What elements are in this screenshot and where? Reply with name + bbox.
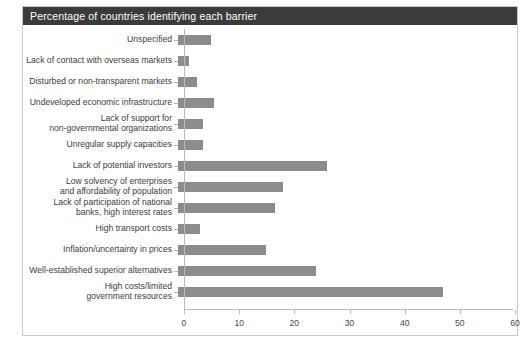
bar-row: Disturbed or non-transparent markets bbox=[23, 71, 517, 92]
bar bbox=[178, 77, 197, 87]
bar-track bbox=[178, 155, 517, 176]
bar-track bbox=[178, 71, 517, 92]
bar-track bbox=[178, 29, 517, 50]
bar-category-label: Lack of contact with overseas markets bbox=[23, 56, 178, 66]
x-axis-tick-label: 10 bbox=[234, 318, 244, 328]
bar-track bbox=[178, 218, 517, 239]
bar bbox=[178, 224, 200, 234]
bar-category-label: Unregular supply capacities bbox=[23, 140, 178, 150]
bar bbox=[178, 140, 203, 150]
x-axis-tick-label: 0 bbox=[182, 318, 187, 328]
bar bbox=[178, 245, 266, 255]
bar bbox=[178, 203, 275, 213]
x-axis-tick bbox=[184, 310, 185, 314]
x-axis-line bbox=[184, 309, 513, 310]
bar-category-label: Low solvency of enterprises and affordab… bbox=[23, 177, 178, 196]
bar-category-label: Lack of potential investors bbox=[23, 161, 178, 171]
y-axis-line bbox=[184, 29, 185, 310]
bar-category-label: High costs/limited government resources bbox=[23, 282, 178, 301]
x-axis-tick bbox=[239, 310, 240, 314]
x-axis-tick-label: 50 bbox=[455, 318, 465, 328]
x-axis-tick-label: 20 bbox=[290, 318, 300, 328]
bar bbox=[178, 182, 283, 192]
bar-category-label: Lack of support for non-governmental org… bbox=[23, 114, 178, 133]
x-axis-tick-label: 40 bbox=[400, 318, 410, 328]
bar-category-label: Well-established superior alternatives bbox=[23, 266, 178, 276]
chart-title-bar: Percentage of countries identifying each… bbox=[23, 7, 517, 25]
plot-area: UnspecifiedLack of contact with overseas… bbox=[23, 25, 517, 336]
bar-category-label: Lack of participation of national banks,… bbox=[23, 198, 178, 217]
bar-track bbox=[178, 260, 517, 281]
x-axis-tick bbox=[460, 310, 461, 314]
bar-track bbox=[178, 197, 517, 218]
bar-category-label: Undeveloped economic infrastructure bbox=[23, 98, 178, 108]
x-axis-tick-label: 60 bbox=[510, 318, 520, 328]
bar-row: Unspecified bbox=[23, 29, 517, 50]
bar bbox=[178, 161, 327, 171]
bar bbox=[178, 35, 211, 45]
bar-row: Inflation/uncertainty in prices bbox=[23, 239, 517, 260]
bar-category-label: High transport costs bbox=[23, 224, 178, 234]
bar-category-label: Inflation/uncertainty in prices bbox=[23, 245, 178, 255]
bar-row: Unregular supply capacities bbox=[23, 134, 517, 155]
bar-row: High costs/limited government resources bbox=[23, 281, 517, 302]
x-axis-tick bbox=[515, 310, 516, 314]
bar-track bbox=[178, 239, 517, 260]
bar-track bbox=[178, 281, 517, 302]
bar bbox=[178, 287, 443, 297]
bar-track bbox=[178, 50, 517, 71]
x-axis-tick bbox=[405, 310, 406, 314]
chart-figure: Percentage of countries identifying each… bbox=[22, 6, 518, 336]
bar-row: Lack of potential investors bbox=[23, 155, 517, 176]
x-axis-tick bbox=[350, 310, 351, 314]
bar bbox=[178, 119, 203, 129]
bar-row: Lack of support for non-governmental org… bbox=[23, 113, 517, 134]
x-axis-tick bbox=[294, 310, 295, 314]
bar-row: Undeveloped economic infrastructure bbox=[23, 92, 517, 113]
bar-row: Well-established superior alternatives bbox=[23, 260, 517, 281]
bar-track bbox=[178, 134, 517, 155]
chart-title-text: Percentage of countries identifying each… bbox=[30, 10, 257, 22]
bar-track bbox=[178, 92, 517, 113]
bar-row: Lack of participation of national banks,… bbox=[23, 197, 517, 218]
bar-track bbox=[178, 113, 517, 134]
bar bbox=[178, 266, 316, 276]
bar-track bbox=[178, 176, 517, 197]
bar-row: Low solvency of enterprises and affordab… bbox=[23, 176, 517, 197]
bar-row: Lack of contact with overseas markets bbox=[23, 50, 517, 71]
x-axis-tick-label: 30 bbox=[345, 318, 355, 328]
bar-row: High transport costs bbox=[23, 218, 517, 239]
bar-category-label: Disturbed or non-transparent markets bbox=[23, 77, 178, 87]
bar-category-label: Unspecified bbox=[23, 35, 178, 45]
